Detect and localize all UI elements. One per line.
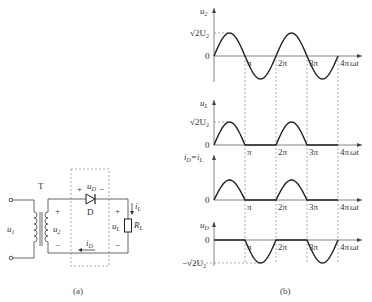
y-axis-label-3: iD=iL <box>184 152 203 163</box>
secondary-coil <box>45 212 48 246</box>
y-axis-arrow-3 <box>212 155 216 160</box>
load-current-label: iL <box>135 201 142 212</box>
primary-wire <box>13 200 34 258</box>
circuit-diagram: T D u1 u2 + − + uD − + − uL RL iL iD (a) <box>7 169 144 296</box>
caption-b: (b) <box>280 286 291 296</box>
tick-label-2pi: 2π <box>278 147 288 157</box>
peak-label-2: √2U₂ <box>190 117 209 127</box>
load-minus: − <box>115 240 120 250</box>
waveform-panels: u20√2U₂π2π3π4πωtuL0√2U₂π2π3π4πωtiD=iL0π2… <box>182 6 362 268</box>
tick-label-4pi: 4π <box>340 202 350 212</box>
tick-label-4pi: 4π <box>340 242 350 252</box>
diode-icon <box>86 194 95 204</box>
waveform-4 <box>214 240 338 263</box>
tick-label-2pi: 2π <box>278 202 288 212</box>
x-axis-label-3: ωt <box>350 202 359 212</box>
tick-label-2pi: 2π <box>278 242 288 252</box>
tick-label-3pi: 3π <box>309 202 319 212</box>
y-axis-label-2: uL <box>200 98 209 109</box>
diode-label: D <box>87 207 94 217</box>
load-plus: + <box>115 206 120 216</box>
secondary-plus: + <box>55 206 60 216</box>
diode-current-label: iD <box>86 238 94 249</box>
zero-label-1: 0 <box>205 51 210 61</box>
load-voltage-label: uL <box>112 221 121 232</box>
diode-minus: − <box>99 184 104 194</box>
tick-label-1pi: π <box>247 58 252 68</box>
x-axis-label-4: ωt <box>350 242 359 252</box>
zero-label-4: 0 <box>205 235 210 245</box>
zero-label-3: 0 <box>205 195 210 205</box>
neg-peak-label-4: −√2U₂ <box>182 258 206 268</box>
caption-a: (a) <box>73 286 83 296</box>
tick-label-1pi: π <box>247 202 252 212</box>
load-current-arrow-head <box>130 211 134 215</box>
diode-current-arrow-head <box>78 248 82 252</box>
input-voltage-label: u1 <box>7 224 15 235</box>
figure: T D u1 u2 + − + uD − + − uL RL iL iD (a)… <box>0 0 372 302</box>
load-resistor-icon <box>125 219 132 232</box>
y-axis-arrow-2 <box>212 100 216 105</box>
zero-label-2: 0 <box>205 140 210 150</box>
y-axis-arrow-1 <box>212 8 216 13</box>
primary-coil <box>34 212 37 246</box>
tick-label-3pi: 3π <box>309 147 319 157</box>
secondary-voltage-label: u2 <box>53 224 61 235</box>
tick-label-1pi: π <box>247 147 252 157</box>
tick-label-4pi: 4π <box>340 147 350 157</box>
y-axis-label-4: uD <box>200 220 210 231</box>
x-axis-label-1: ωt <box>350 58 359 68</box>
secondary-minus: − <box>55 240 60 250</box>
diode-plus: + <box>77 184 82 194</box>
tick-label-3pi: 3π <box>309 242 319 252</box>
x-axis-label-2: ωt <box>350 147 359 157</box>
tick-label-4pi: 4π <box>340 58 350 68</box>
transformer-label: T <box>38 181 44 191</box>
tick-label-1pi: π <box>247 242 252 252</box>
diode-voltage-label: uD <box>87 181 97 192</box>
tick-label-3pi: 3π <box>309 58 319 68</box>
input-terminal-top <box>9 198 13 202</box>
input-terminal-bottom <box>9 256 13 260</box>
load-resistor-label: RL <box>133 220 144 231</box>
peak-label-1: √2U₂ <box>190 28 209 38</box>
y-axis-label-1: u2 <box>200 6 208 17</box>
tick-label-2pi: 2π <box>278 58 288 68</box>
y-axis-arrow-4 <box>212 222 216 227</box>
